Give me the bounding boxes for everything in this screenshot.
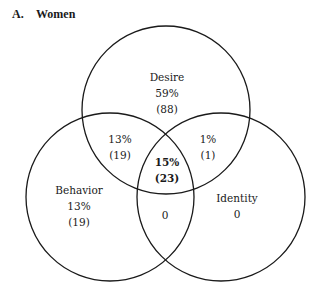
behavior-count: (19) <box>55 214 103 230</box>
venn-diagram <box>0 0 318 301</box>
region-identity-only: Identity 0 <box>216 190 258 222</box>
behavior-identity-value: 0 <box>162 207 169 223</box>
desire-behavior-count: (19) <box>108 147 131 163</box>
desire-count: (88) <box>150 101 185 117</box>
all-three-count: (23) <box>155 170 180 186</box>
desire-identity-count: (1) <box>200 147 217 163</box>
identity-value: 0 <box>216 206 258 222</box>
region-behavior-only: Behavior 13% (19) <box>55 182 103 230</box>
all-three-percent: 15% <box>155 154 180 170</box>
region-all-three: 15% (23) <box>155 154 180 186</box>
region-behavior-identity: 0 <box>162 207 169 223</box>
region-desire-identity: 1% (1) <box>200 131 217 163</box>
behavior-percent: 13% <box>55 198 103 214</box>
desire-label: Desire <box>150 69 185 85</box>
identity-label: Identity <box>216 190 258 206</box>
desire-identity-percent: 1% <box>200 131 217 147</box>
desire-behavior-percent: 13% <box>108 131 131 147</box>
region-desire-only: Desire 59% (88) <box>150 69 185 117</box>
desire-percent: 59% <box>150 85 185 101</box>
behavior-label: Behavior <box>55 182 103 198</box>
region-desire-behavior: 13% (19) <box>108 131 131 163</box>
